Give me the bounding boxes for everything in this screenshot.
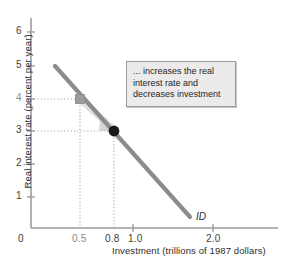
chart-canvas	[0, 0, 284, 258]
x-tick-label-2-0: 2.0	[206, 233, 221, 244]
y-axis-title: Real interest rate (percent per year)	[22, 39, 33, 189]
y-tick-label-1: 1	[16, 190, 22, 201]
investment-demand-figure: 6 5 4 3 2 1 0 0.5 0.8 1.0 2.0 Real inter…	[0, 0, 284, 258]
x-tick-label-0: 0	[18, 233, 24, 244]
x-tick-label-0-8: 0.8	[105, 233, 120, 244]
x-axis-title: Investment (trillions of 1987 dollars)	[112, 245, 266, 256]
curve-label-id: ID	[196, 211, 206, 222]
callout-line-2: interest rate and	[133, 78, 230, 90]
callout-line-3: decreases investment	[133, 89, 230, 101]
callout-line-1: ... increases the real	[133, 66, 230, 78]
x-tick-label-0-5: 0.5	[72, 233, 87, 244]
new-equilibrium-point	[109, 126, 120, 137]
initial-equilibrium-point	[76, 95, 85, 104]
callout-note: ... increases the real interest rate and…	[126, 61, 236, 107]
axis-lines	[31, 18, 278, 228]
x-tick-label-1-0: 1.0	[128, 233, 143, 244]
